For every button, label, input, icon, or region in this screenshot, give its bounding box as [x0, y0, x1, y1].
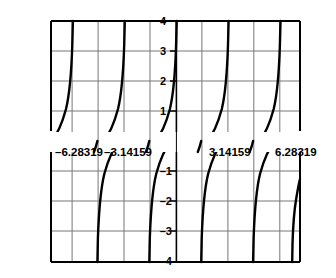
- ytick-label-neg4: –4: [160, 255, 173, 267]
- ytick-label-2: 2: [160, 75, 166, 87]
- xtick-label-neg-2pi: –6.28319: [55, 146, 103, 158]
- ytick-label-neg2: –2: [160, 195, 172, 207]
- tangent-plot-svg: –6.28319 –3.14159 3.14159 6.28319 4 3 2 …: [0, 0, 336, 278]
- ytick-label-3: 3: [160, 45, 166, 57]
- chart-figure: –6.28319 –3.14159 3.14159 6.28319 4 3 2 …: [0, 0, 336, 278]
- ytick-label-4: 4: [160, 15, 167, 27]
- xtick-label-pos-2pi: 6.28319: [275, 146, 317, 158]
- xtick-label-pos-pi: 3.14159: [209, 146, 251, 158]
- ytick-label-neg1: –1: [160, 165, 172, 177]
- xtick-label-neg-pi: –3.14159: [104, 146, 152, 158]
- ytick-label-neg3: –3: [160, 225, 172, 237]
- ytick-label-1: 1: [160, 105, 166, 117]
